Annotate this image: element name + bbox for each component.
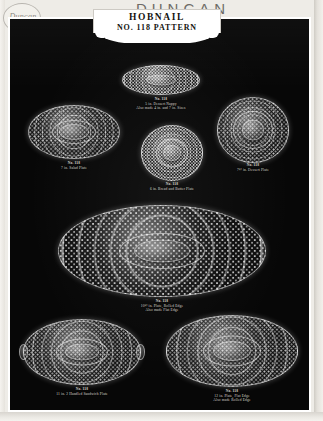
page-edge-right	[314, 0, 323, 421]
product-flat-edge-plate: No. 118 12 in. Plate, Flat Edge Also mad…	[162, 315, 302, 403]
page-bottom-edge	[0, 412, 323, 421]
caption-note: Also made 4 in. and 7 in. Sizes	[106, 106, 216, 111]
product-sandwich-plate: No. 118 11 in. 2 Handled Sandwich Plate	[18, 319, 146, 403]
plate-image-sandwich-plate	[23, 319, 141, 385]
caption-name: 6 in. Bread and Butter Plate	[122, 187, 222, 192]
caption-bread-butter-plate: No. 118 6 in. Bread and Butter Plate	[122, 182, 222, 191]
plate-rim	[122, 65, 200, 95]
plate-rim	[28, 105, 120, 159]
plate-rim	[58, 205, 266, 297]
caption-note: Also made Rolled Edge	[162, 398, 302, 403]
catalog-page: DUNCAN Duncan No. 118 5 in. Dessert Napp…	[0, 0, 323, 421]
caption-rolled-edge-plate: No. 118 10½ in. Plate, Rolled Edge Also …	[87, 299, 237, 313]
plate-image-dessert-nappy	[122, 65, 200, 95]
caption-name: 7 in. Salad Plate	[26, 166, 122, 171]
banner-subtitle: NO. 118 PATTERN	[93, 23, 221, 32]
caption-name: 11 in. 2 Handled Sandwich Plate	[18, 392, 146, 397]
pattern-banner: HOBNAIL NO. 118 PATTERN	[93, 9, 221, 42]
product-bread-butter-plate: No. 118 6 in. Bread and Butter Plate	[122, 125, 222, 197]
plate-photo-field: No. 118 5 in. Dessert Nappy Also made 4 …	[8, 17, 311, 412]
plate-image-dessert-plate	[217, 97, 289, 163]
plate-image-flat-edge-plate	[166, 315, 298, 387]
product-dessert-nappy: No. 118 5 in. Dessert Nappy Also made 4 …	[120, 63, 202, 109]
plate-photo-inner: No. 118 5 in. Dessert Nappy Also made 4 …	[10, 19, 309, 410]
page-edge-left	[0, 0, 5, 421]
product-rolled-edge-plate: No. 118 10½ in. Plate, Rolled Edge Also …	[56, 205, 268, 317]
plate-image-bread-butter-plate	[141, 125, 203, 181]
caption-flat-edge-plate: No. 118 12 in. Plate, Flat Edge Also mad…	[162, 389, 302, 403]
plate-rim	[141, 125, 203, 181]
plate-image-rolled-edge-plate	[58, 205, 266, 297]
plate-rim	[23, 319, 141, 385]
plate-rim	[217, 97, 289, 163]
banner-title: HOBNAIL	[93, 12, 221, 22]
plate-rim	[166, 315, 298, 387]
caption-note: Also made Flat Edge	[87, 308, 237, 313]
product-salad-plate: No. 118 7 in. Salad Plate	[26, 105, 122, 171]
caption-salad-plate: No. 118 7 in. Salad Plate	[26, 161, 122, 170]
caption-dessert-nappy: No. 118 5 in. Dessert Nappy Also made 4 …	[106, 97, 216, 111]
banner-skirt	[100, 32, 214, 43]
caption-sandwich-plate: No. 118 11 in. 2 Handled Sandwich Plate	[18, 387, 146, 396]
plate-image-salad-plate	[28, 105, 120, 159]
